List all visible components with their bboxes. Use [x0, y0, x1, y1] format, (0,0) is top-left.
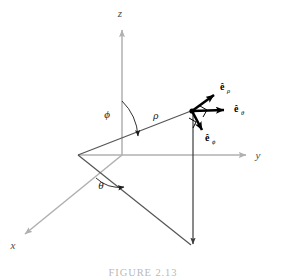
e-rho-label-group: ê ρ	[220, 81, 230, 94]
labels-group: z y x ϕ θ ρ ê ρ ê θ ê ϕ	[10, 7, 261, 251]
xy-projection-line	[78, 155, 191, 245]
x-axis-line	[25, 155, 122, 234]
point-p-marker	[189, 108, 194, 113]
e-phi-label-group: ê ϕ	[205, 132, 216, 145]
e-phi-label-base: ê	[205, 132, 210, 143]
e-theta-label-subscript: θ	[241, 109, 245, 116]
rho-label: ρ	[152, 109, 158, 121]
projection-lines-group	[78, 112, 193, 245]
phi-angle-label: ϕ	[104, 108, 110, 120]
e-theta-arrow	[192, 110, 224, 111]
e-rho-arrow	[192, 95, 214, 111]
spherical-coordinate-diagram: z y x ϕ θ ρ ê ρ ê θ ê ϕ	[0, 0, 286, 280]
z-axis-label: z	[117, 7, 123, 19]
e-theta-label-base: ê	[234, 103, 239, 114]
e-theta-label-group: ê θ	[234, 103, 245, 116]
figure-container: z y x ϕ θ ρ ê ρ ê θ ê ϕ FIGURE 2.13	[0, 0, 286, 280]
x-axis-label: x	[10, 239, 16, 251]
theta-angle-label: θ	[98, 179, 104, 191]
rho-line	[78, 111, 191, 155]
figure-caption: FIGURE 2.13	[0, 266, 286, 280]
e-rho-label-subscript: ρ	[226, 87, 230, 94]
y-axis-label: y	[255, 149, 261, 161]
e-phi-label-subscript: ϕ	[212, 138, 216, 145]
e-rho-label-base: ê	[220, 81, 225, 92]
phi-arc	[122, 101, 138, 136]
radius-vector-group	[78, 111, 191, 155]
